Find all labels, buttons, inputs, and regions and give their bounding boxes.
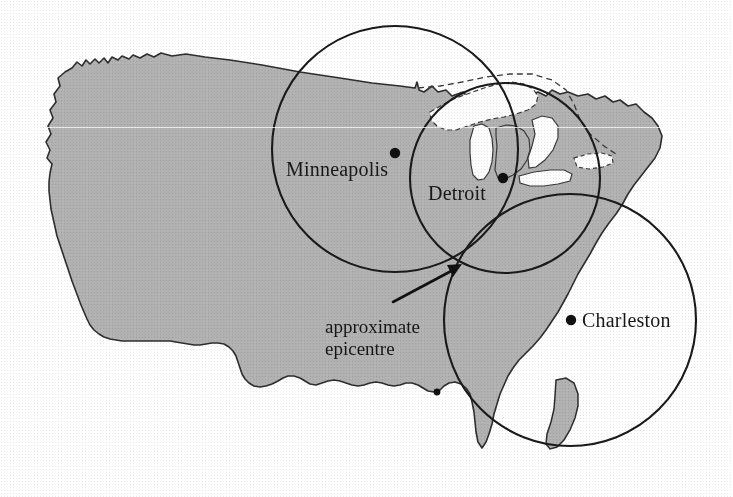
epicentre-annotation-line1: approximate bbox=[325, 316, 420, 338]
city-label-minneapolis: Minneapolis bbox=[286, 158, 388, 181]
map-svg bbox=[0, 0, 733, 497]
epicentre-annotation-line2: epicentre bbox=[325, 338, 420, 360]
city-dot-minneapolis bbox=[390, 148, 400, 158]
epicentre-annotation: approximate epicentre bbox=[325, 316, 420, 360]
lake-michigan bbox=[470, 124, 493, 180]
florida-peninsula bbox=[546, 378, 578, 449]
city-dot-detroit bbox=[498, 173, 508, 183]
city-dot-gulf-unlabeled bbox=[434, 389, 441, 396]
city-dot-charleston bbox=[566, 315, 576, 325]
city-label-detroit: Detroit bbox=[428, 182, 486, 205]
figure-canvas: Minneapolis Detroit Charleston approxima… bbox=[0, 0, 733, 497]
city-label-charleston: Charleston bbox=[582, 309, 671, 332]
florida-path bbox=[546, 378, 578, 449]
